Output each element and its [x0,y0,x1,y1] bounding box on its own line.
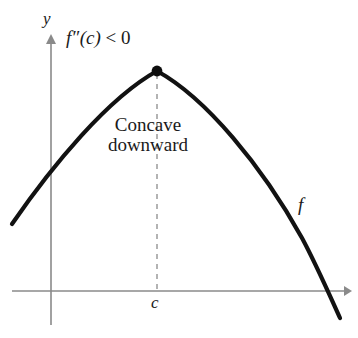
y-axis-label: y [43,10,51,28]
second-derivative-relation: < 0 [101,27,131,48]
concave-line-2: downward [88,135,208,155]
figure-canvas [0,0,358,338]
x-axis-arrowhead-icon [344,286,352,296]
y-axis-arrowhead-icon [46,34,56,44]
critical-point-dot [152,66,163,77]
function-curve-f [12,71,340,318]
concavity-figure: y f″(c) < 0 Concavedownward c f [0,0,358,338]
second-derivative-arg: (c) [80,27,101,48]
concave-line-1: Concave [88,115,208,135]
second-derivative-prime: ″ [71,27,79,48]
x-axis-tick-label-c: c [151,294,159,312]
concave-downward-annotation: Concavedownward [88,115,208,155]
second-derivative-condition-label: f″(c) < 0 [66,28,131,48]
curve-label-f: f [298,195,303,215]
